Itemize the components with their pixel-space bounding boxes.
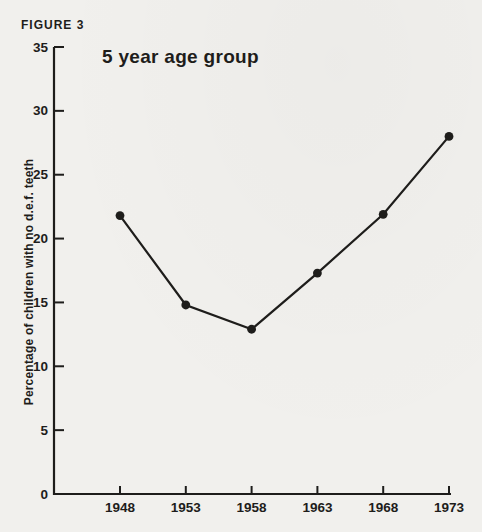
axes: [54, 47, 451, 494]
data-point-marker: [181, 301, 190, 310]
y-axis-ticks: 05101520253035: [33, 40, 64, 502]
axis-frame: [54, 47, 451, 494]
x-tick-label: 1973: [434, 500, 465, 515]
x-axis-ticks: 194819531958196319681973: [105, 486, 465, 515]
x-tick-label: 1958: [237, 500, 268, 515]
x-tick-label: 1963: [302, 500, 333, 515]
y-tick-label: 35: [33, 40, 49, 55]
y-tick-label: 0: [40, 487, 48, 502]
y-tick-label: 20: [33, 231, 48, 246]
data-point-marker: [379, 210, 388, 219]
y-tick-label: 25: [33, 167, 49, 182]
y-tick-label: 5: [40, 423, 48, 438]
x-tick-label: 1968: [368, 500, 399, 515]
x-tick-label: 1953: [171, 500, 202, 515]
y-tick-label: 15: [33, 295, 49, 310]
x-tick-label: 1948: [105, 500, 136, 515]
data-point-marker: [247, 325, 256, 334]
data-line: [120, 136, 449, 329]
y-tick-label: 10: [33, 359, 48, 374]
data-point-marker: [116, 211, 125, 220]
data-point-marker: [445, 132, 454, 141]
scanned-page-background: FIGURE 3 5 year age group Percentage of …: [0, 0, 482, 532]
line-chart: 05101520253035 194819531958196319681973: [0, 0, 482, 532]
data-series: [116, 132, 454, 334]
y-tick-label: 30: [33, 103, 48, 118]
data-point-marker: [313, 269, 322, 278]
